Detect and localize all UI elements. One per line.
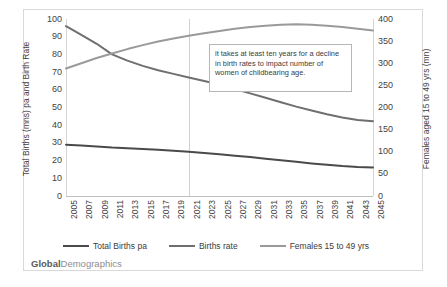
y-tick-right: 300: [378, 59, 408, 68]
y-tick-right: 400: [378, 15, 408, 24]
y-tick-left: 0: [26, 192, 62, 201]
x-tick-label: 2009: [101, 200, 110, 219]
y-tick-right: 250: [378, 81, 408, 90]
legend-item[interactable]: Total Births pa: [63, 242, 147, 251]
y-tick-right: 50: [378, 169, 408, 178]
plot-axis-bottom-line: [66, 196, 373, 197]
x-tick-label: 2033: [285, 200, 294, 219]
legend-label: Births rate: [199, 242, 238, 251]
series-line: [66, 145, 373, 168]
x-tick-label: 2011: [116, 200, 125, 218]
legend-swatch: [169, 245, 195, 247]
y-tick-right: 100: [378, 147, 408, 156]
x-tick-label: 2017: [162, 200, 171, 219]
chart-legend: Total Births paBirths rateFemales 15 to …: [46, 240, 386, 252]
x-tick-label: 2013: [131, 200, 140, 219]
x-tick-label: 2035: [300, 200, 309, 219]
x-tick-label: 2045: [377, 200, 386, 219]
x-tick-label: 2039: [331, 200, 340, 219]
legend-label: Females 15 to 49 yrs: [290, 242, 369, 251]
x-tick-label: 2005: [70, 200, 79, 219]
legend-swatch: [63, 245, 89, 247]
y-tick-left: 90: [26, 32, 62, 41]
y-tick-right: 150: [378, 125, 408, 134]
y-tick-left: 70: [26, 68, 62, 77]
x-tick-label: 2037: [316, 200, 325, 219]
brand-primary: Global: [31, 258, 61, 269]
legend-item[interactable]: Births rate: [169, 242, 238, 251]
x-tick-label: 2019: [177, 200, 186, 219]
x-tick-label: 2015: [147, 200, 156, 219]
legend-item[interactable]: Females 15 to 49 yrs: [260, 242, 369, 251]
y-axis-right-title: Females aged 15 to 49 yrs (mn): [421, 29, 431, 189]
y-tick-left: 30: [26, 138, 62, 147]
plot-axis-right-line: [373, 19, 374, 196]
y-tick-left: 100: [26, 15, 62, 24]
x-tick-label: 2007: [85, 200, 94, 219]
x-tick-label: 2041: [346, 200, 355, 219]
y-axis-left-title: Total Births (mns) pa and Birth Rate: [21, 29, 31, 189]
y-tick-left: 60: [26, 85, 62, 94]
brand-logo: GlobalDemographics: [31, 258, 122, 269]
annotation-callout: it takes at least ten years for a declin…: [209, 44, 352, 92]
y-tick-left: 20: [26, 156, 62, 165]
legend-label: Total Births pa: [93, 242, 147, 251]
x-tick-label: 2027: [239, 200, 248, 219]
legend-swatch: [260, 245, 286, 247]
brand-secondary: Demographics: [61, 258, 122, 269]
y-tick-right: 200: [378, 103, 408, 112]
x-tick-label: 2029: [254, 200, 263, 219]
y-tick-right: 350: [378, 37, 408, 46]
chart-figure: 0102030405060708090100 05010015020025030…: [0, 0, 447, 287]
x-tick-label: 2025: [224, 200, 233, 219]
x-tick-label: 2043: [362, 200, 371, 219]
x-tick-label: 2023: [208, 200, 217, 219]
y-tick-left: 40: [26, 121, 62, 130]
y-tick-left: 50: [26, 103, 62, 112]
y-tick-left: 10: [26, 174, 62, 183]
x-tick-label: 2021: [193, 200, 202, 219]
y-tick-left: 80: [26, 50, 62, 59]
x-tick-label: 2031: [270, 200, 279, 219]
